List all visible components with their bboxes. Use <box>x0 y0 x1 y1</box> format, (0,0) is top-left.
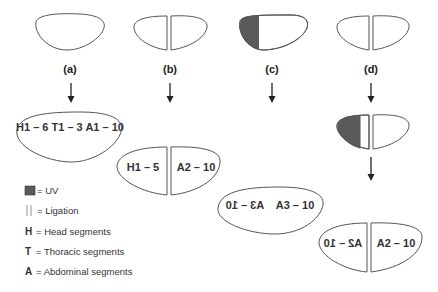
legend-head: = Head segments <box>36 226 111 237</box>
label-b: (b) <box>163 63 177 75</box>
uv-swatch-icon <box>25 186 35 195</box>
result-b-right-text: A2 – 10 <box>177 161 216 173</box>
arrow-c <box>269 83 276 103</box>
result-d-left-text-mirrored: A2 – 10 <box>324 237 363 249</box>
label-d: (d) <box>364 63 378 75</box>
embryo-a-initial <box>36 14 104 50</box>
result-b-left-text: H1 – 5 <box>127 161 159 173</box>
result-c-left-text-mirrored: A3 – 10 <box>226 199 265 211</box>
embryo-c-initial <box>240 15 308 50</box>
label-c: (c) <box>265 63 279 75</box>
legend-symbol-t: T <box>25 246 31 257</box>
legend-uv: = UV <box>37 185 59 196</box>
legend-symbol-a: A <box>25 266 32 277</box>
result-b: H1 – 5 A2 – 10 <box>117 147 220 195</box>
result-c: A3 – 10 A3 – 10 <box>218 187 323 234</box>
embryo-d-initial <box>337 16 409 50</box>
arrow-d-second <box>368 157 375 181</box>
ligation-symbol-icon <box>27 205 31 216</box>
legend-thoracic: = Thoracic segments <box>36 246 125 257</box>
arrow-a <box>68 83 75 103</box>
legend-ligation: = Ligation <box>37 205 78 216</box>
diagram-canvas: (a) (b) (c) (d) H1 – 6 T1 – 3 A1 – 10 <box>0 0 438 292</box>
result-a: H1 – 6 T1 – 3 A1 – 10 <box>16 112 124 162</box>
result-d-right-text: A2 – 10 <box>377 237 416 249</box>
legend-symbol-h: H <box>25 226 32 237</box>
arrow-d <box>368 83 375 103</box>
embryo-b-initial <box>134 16 207 50</box>
result-c-right-text: A3 – 10 <box>276 199 315 211</box>
legend: = UV = Ligation H = Head segments T = Th… <box>25 185 133 277</box>
legend-abdominal: = Abdominal segments <box>36 266 133 277</box>
embryo-d-intermediate <box>337 115 409 149</box>
result-d: A2 – 10 A2 – 10 <box>319 223 422 272</box>
label-a: (a) <box>63 63 77 75</box>
arrow-b <box>167 83 174 103</box>
result-a-text: H1 – 6 T1 – 3 A1 – 10 <box>16 121 124 133</box>
